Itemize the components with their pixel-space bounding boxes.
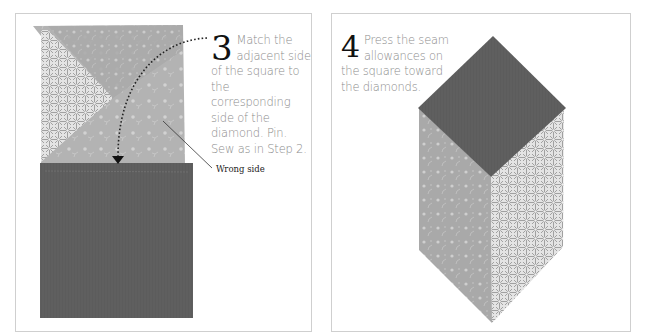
wrong-side-label: Wrong side [216,164,265,174]
step-3-instruction: 3 Match the adjacent side of the square … [211,33,311,157]
step-3-number: 3 [211,34,232,62]
step-3-fabric-stack [33,25,212,318]
step-4-instruction: 4 Press the seam allowances on the squar… [341,33,459,95]
dark-square-wrong-side [40,163,193,318]
step-4-number: 4 [341,34,360,60]
illustration-layer [0,0,650,336]
